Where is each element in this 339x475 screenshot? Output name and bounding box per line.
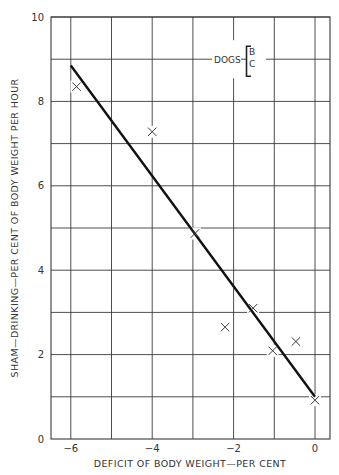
y-tick-label: 2	[38, 349, 44, 360]
legend-entry-c: C	[249, 59, 255, 69]
legend-entry-b: B	[249, 47, 255, 57]
x-tick-labels: −6−4−20	[63, 443, 318, 454]
chart: −6−4−20 0246810 DOGS B C DEFICIT OF BODY…	[0, 0, 339, 475]
y-tick-labels: 0246810	[31, 12, 44, 445]
y-tick-label: 8	[38, 96, 44, 107]
x-tick-label: −4	[145, 443, 160, 454]
y-axis-label: SHAM—DRINKING—PER CENT OF BODY WEIGHT PE…	[9, 79, 20, 378]
x-axis-label: DEFICIT OF BODY WEIGHT—PER CENT	[94, 458, 287, 469]
y-tick-label: 0	[38, 434, 44, 445]
x-tick-label: −6	[63, 443, 78, 454]
x-tick-label: −2	[226, 443, 241, 454]
y-tick-label: 6	[38, 180, 44, 191]
marker-gaps	[70, 81, 321, 407]
y-tick-label: 4	[38, 265, 44, 276]
data-points	[72, 82, 319, 404]
legend: DOGS B C	[212, 40, 266, 78]
y-tick-label: 10	[31, 12, 44, 23]
x-tick-label: 0	[312, 443, 318, 454]
legend-label: DOGS	[214, 55, 241, 65]
